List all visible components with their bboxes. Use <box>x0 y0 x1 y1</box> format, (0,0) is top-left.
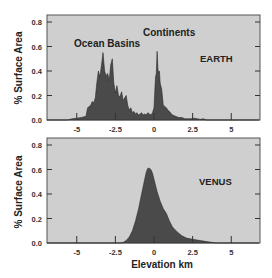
earth-title: EARTH <box>200 53 233 64</box>
x-tick-label: -2.5 <box>109 125 122 134</box>
earth-panel: -5-2.502.55 0.00.20.40.60.8 Ocean Basins… <box>13 15 260 134</box>
y-tick-label: 0.8 <box>32 141 42 150</box>
x-tick-label: -5 <box>73 125 80 134</box>
x-tick-label: 5 <box>229 125 233 134</box>
x-axis-label: Elevation km <box>131 259 193 270</box>
x-tick-label: 5 <box>229 248 233 257</box>
x-tick-label: 2.5 <box>187 248 197 257</box>
annotation-continents: Continents <box>143 27 196 38</box>
x-tick-label: -5 <box>73 248 80 257</box>
y-tick-label: 0.2 <box>32 215 42 224</box>
venus-y-axis-label: % Surface Area <box>13 155 24 228</box>
venus-panel: -5-2.502.55 0.00.20.40.60.8 VENUS % Surf… <box>13 138 260 270</box>
y-tick-label: 0.4 <box>32 190 43 199</box>
y-tick-label: 0.4 <box>32 67 43 76</box>
x-tick-label: 2.5 <box>187 125 197 134</box>
venus-title: VENUS <box>199 176 232 187</box>
y-tick-label: 0.8 <box>32 18 42 27</box>
y-tick-label: 0.0 <box>32 116 42 125</box>
hypsometry-figure: -5-2.502.55 0.00.20.40.60.8 Ocean Basins… <box>0 0 272 278</box>
y-tick-label: 0.0 <box>32 239 42 248</box>
x-tick-label: 0 <box>152 125 156 134</box>
x-tick-label: 0 <box>152 248 156 257</box>
y-tick-label: 0.6 <box>32 166 42 175</box>
earth-y-axis-label: % Surface Area <box>13 31 24 104</box>
annotation-ocean-basins: Ocean Basins <box>74 38 141 49</box>
y-tick-label: 0.2 <box>32 92 42 101</box>
x-tick-label: -2.5 <box>109 248 122 257</box>
y-tick-label: 0.6 <box>32 43 42 52</box>
